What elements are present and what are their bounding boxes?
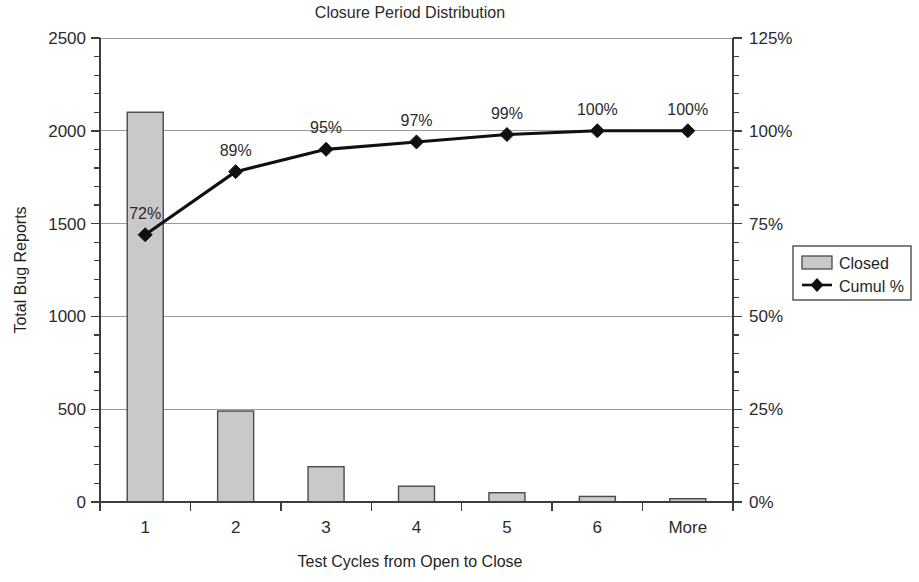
legend-label-closed: Closed — [839, 255, 889, 272]
bar — [399, 486, 435, 502]
pareto-chart: Closure Period Distribution 72%89%95%97%… — [0, 0, 919, 582]
right-axis-tick-label: 0% — [749, 493, 774, 512]
left-axis-tick-label: 2000 — [48, 122, 86, 141]
bar — [489, 493, 525, 502]
x-axis-tick-label: 2 — [231, 518, 240, 537]
left-axis-tick-label: 1500 — [48, 215, 86, 234]
bar — [308, 467, 344, 502]
x-axis-tick-label: 5 — [502, 518, 511, 537]
x-axis-tick-label: 6 — [593, 518, 602, 537]
bar — [218, 411, 254, 502]
legend[interactable]: Closed Cumul % — [793, 246, 911, 300]
left-axis-tick-label: 0 — [77, 493, 86, 512]
data-label: 95% — [310, 119, 342, 136]
chart-canvas: Closure Period Distribution 72%89%95%97%… — [0, 0, 919, 582]
chart-title: Closure Period Distribution — [315, 4, 505, 21]
x-axis-title: Test Cycles from Open to Close — [298, 553, 523, 570]
data-label: 72% — [129, 205, 161, 222]
data-label: 89% — [220, 142, 252, 159]
data-label: 100% — [577, 101, 618, 118]
left-axis-tick-label: 2500 — [48, 29, 86, 48]
left-axis-tick-label: 1000 — [48, 307, 86, 326]
right-axis-tick-label: 75% — [749, 215, 783, 234]
legend-label-cumul: Cumul % — [839, 278, 904, 295]
data-label: 99% — [491, 105, 523, 122]
x-axis-tick-label: 1 — [140, 518, 149, 537]
left-axis-tick-label: 500 — [58, 400, 86, 419]
y-axis-title: Total Bug Reports — [12, 206, 29, 333]
x-axis-tick-label: 3 — [321, 518, 330, 537]
data-label: 100% — [667, 101, 708, 118]
x-axis-tick-label: 4 — [412, 518, 421, 537]
right-axis-tick-label: 50% — [749, 307, 783, 326]
right-axis-tick-label: 100% — [749, 122, 792, 141]
right-axis-tick-label: 125% — [749, 29, 792, 48]
right-axis-tick-label: 25% — [749, 400, 783, 419]
x-axis-tick-label: More — [668, 518, 707, 537]
legend-swatch-closed — [802, 256, 832, 269]
bar — [579, 496, 615, 502]
data-label: 97% — [400, 112, 432, 129]
bar — [127, 112, 163, 502]
